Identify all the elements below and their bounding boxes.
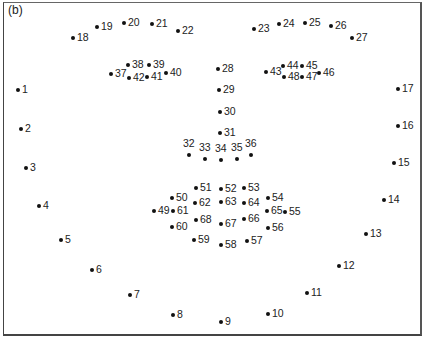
landmark-dot-icon xyxy=(249,153,253,157)
landmark-label: 25 xyxy=(309,17,321,28)
landmark-dot-icon xyxy=(95,25,99,29)
landmark-label: 29 xyxy=(223,84,235,95)
landmark-label: 47 xyxy=(306,71,318,82)
landmark-dot-icon xyxy=(109,72,113,76)
landmark-dot-icon xyxy=(150,22,154,26)
landmark-label: 22 xyxy=(182,25,194,36)
landmark-label: 19 xyxy=(101,21,113,32)
landmark-dot-icon xyxy=(218,110,222,114)
landmark-label: 32 xyxy=(183,138,195,149)
landmark-dot-icon xyxy=(219,320,223,324)
landmark-label: 12 xyxy=(343,260,355,271)
landmark-label: 9 xyxy=(225,316,231,327)
landmark-label: 16 xyxy=(402,120,414,131)
landmark-label: 14 xyxy=(388,194,400,205)
landmark-dot-icon xyxy=(219,243,223,247)
landmark-label: 35 xyxy=(231,142,243,153)
landmark-label: 56 xyxy=(272,222,284,233)
landmark-dot-icon xyxy=(71,36,75,40)
landmark-label: 60 xyxy=(176,221,188,232)
landmark-dot-icon xyxy=(396,87,400,91)
landmark-label: 1 xyxy=(22,84,28,95)
landmark-dot-icon xyxy=(90,268,94,272)
landmark-label: 58 xyxy=(225,239,237,250)
landmark-dot-icon xyxy=(187,153,191,157)
landmark-dot-icon xyxy=(152,209,156,213)
landmark-label: 67 xyxy=(225,218,237,229)
landmark-label: 39 xyxy=(153,59,165,70)
landmark-label: 57 xyxy=(251,235,263,246)
landmark-dot-icon xyxy=(242,186,246,190)
landmark-label: 59 xyxy=(198,234,210,245)
landmark-label: 42 xyxy=(133,72,145,83)
landmark-dot-icon xyxy=(203,157,207,161)
landmark-label: 24 xyxy=(283,18,295,29)
landmark-dot-icon xyxy=(145,75,149,79)
landmark-dot-icon xyxy=(300,64,304,68)
landmark-dot-icon xyxy=(364,232,368,236)
landmark-dot-icon xyxy=(252,27,256,31)
landmark-label: 26 xyxy=(335,20,347,31)
landmark-label: 54 xyxy=(272,192,284,203)
landmark-dot-icon xyxy=(37,204,41,208)
landmark-dot-icon xyxy=(303,21,307,25)
panel-label: (b) xyxy=(8,3,23,17)
landmark-dot-icon xyxy=(265,209,269,213)
landmark-label: 50 xyxy=(176,192,188,203)
landmark-label: 46 xyxy=(323,67,335,78)
landmark-label: 41 xyxy=(151,71,163,82)
landmark-label: 3 xyxy=(30,162,36,173)
landmark-dot-icon xyxy=(171,313,175,317)
landmark-label: 52 xyxy=(225,183,237,194)
landmark-dot-icon xyxy=(16,88,20,92)
landmark-label: 4 xyxy=(43,200,49,211)
landmark-dot-icon xyxy=(219,158,223,162)
landmark-label: 51 xyxy=(200,182,212,193)
landmark-label: 53 xyxy=(248,182,260,193)
landmark-label: 36 xyxy=(245,138,257,149)
landmark-label: 44 xyxy=(287,60,299,71)
landmark-dot-icon xyxy=(396,124,400,128)
landmark-label: 18 xyxy=(77,32,89,43)
landmark-dot-icon xyxy=(218,131,222,135)
landmark-label: 65 xyxy=(271,205,283,216)
landmark-dot-icon xyxy=(164,71,168,75)
landmark-dot-icon xyxy=(122,21,126,25)
landmark-label: 15 xyxy=(398,157,410,168)
landmark-label: 5 xyxy=(65,234,71,245)
landmark-label: 61 xyxy=(177,205,189,216)
landmark-dot-icon xyxy=(170,196,174,200)
landmark-dot-icon xyxy=(59,238,63,242)
landmark-dot-icon xyxy=(128,293,132,297)
landmark-label: 30 xyxy=(224,106,236,117)
landmark-label: 21 xyxy=(156,18,168,29)
landmark-dot-icon xyxy=(170,225,174,229)
landmark-dot-icon xyxy=(216,67,220,71)
landmark-dot-icon xyxy=(217,88,221,92)
landmark-dot-icon xyxy=(266,312,270,316)
landmark-dot-icon xyxy=(219,187,223,191)
landmark-label: 34 xyxy=(215,143,227,154)
landmark-dot-icon xyxy=(219,200,223,204)
landmark-dot-icon xyxy=(245,239,249,243)
landmark-label: 55 xyxy=(289,206,301,217)
landmark-label: 17 xyxy=(402,83,414,94)
landmark-dot-icon xyxy=(281,64,285,68)
landmark-dot-icon xyxy=(176,29,180,33)
landmark-dot-icon xyxy=(147,63,151,67)
landmark-dot-icon xyxy=(350,36,354,40)
landmark-label: 28 xyxy=(222,63,234,74)
landmark-dot-icon xyxy=(192,238,196,242)
landmark-dot-icon xyxy=(19,127,23,131)
landmark-label: 48 xyxy=(288,71,300,82)
landmark-label: 11 xyxy=(311,287,322,298)
landmark-label: 38 xyxy=(132,59,144,70)
landmark-dot-icon xyxy=(266,226,270,230)
landmark-label: 63 xyxy=(225,196,237,207)
landmark-label: 68 xyxy=(200,214,212,225)
landmark-label: 31 xyxy=(224,127,236,138)
landmark-label: 10 xyxy=(272,308,284,319)
landmark-label: 27 xyxy=(356,32,368,43)
landmark-label: 20 xyxy=(128,17,140,28)
landmark-dot-icon xyxy=(24,166,28,170)
